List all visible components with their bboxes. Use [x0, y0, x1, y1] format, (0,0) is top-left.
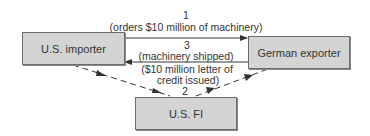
node-german-exporter: German exporter: [248, 36, 350, 69]
arrowhead-step2-mid-right: [244, 74, 253, 81]
node-german-exporter-label: German exporter: [257, 47, 340, 59]
node-us-importer-label: U.S. importer: [41, 43, 106, 55]
node-us-importer: U.S. importer: [22, 32, 125, 65]
step1-number: 1: [176, 10, 196, 21]
step2-number: 2: [175, 86, 195, 97]
arrowhead-step2-near-fi-right: [206, 87, 215, 94]
letter-of-credit-diagram: U.S. importer German exporter U.S. FI 1 …: [0, 0, 370, 136]
step3-text: (machinery shipped): [131, 51, 241, 62]
node-us-fi-label: U.S. FI: [169, 108, 203, 120]
step1-text: (orders $10 million of machinery): [106, 22, 266, 33]
step2-text-line2: credit issued): [148, 75, 228, 86]
arrowhead-step2-near-fi: [152, 88, 162, 93]
arrowhead-step2-mid-left: [96, 70, 106, 76]
node-us-fi: U.S. FI: [135, 97, 237, 130]
